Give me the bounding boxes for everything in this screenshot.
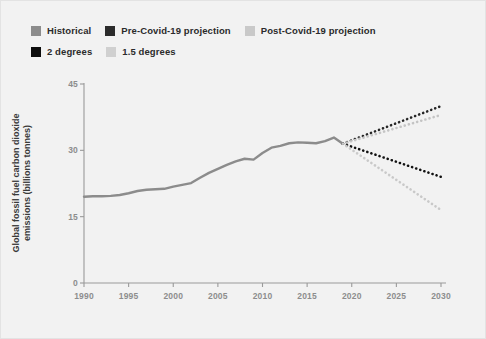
x-axis-tick-label: 2030 — [427, 291, 455, 301]
series-post-covid-19-projection — [343, 115, 441, 144]
x-axis-tick-label: 2020 — [338, 291, 366, 301]
chart-figure: Historical Pre-Covid-19 projection Post-… — [0, 0, 486, 339]
series-1-5-degrees — [343, 144, 441, 210]
y-axis-tick-label: 0 — [50, 278, 78, 288]
series-pre-covid-19-projection — [343, 106, 441, 144]
x-axis-tick-label: 1995 — [115, 291, 143, 301]
x-axis-tick-label: 2005 — [204, 291, 232, 301]
x-axis-tick-label: 1990 — [70, 291, 98, 301]
y-axis-tick-label: 30 — [50, 145, 78, 155]
series-historical — [84, 138, 343, 197]
x-axis-tick-label: 2000 — [159, 291, 187, 301]
x-axis-tick-label: 2015 — [293, 291, 321, 301]
y-axis-tick-label: 15 — [50, 212, 78, 222]
x-axis-tick-label: 2010 — [249, 291, 277, 301]
chart-plot-area — [1, 1, 486, 339]
series-2-degrees — [343, 144, 441, 177]
y-axis-title: Global fossil fuel carbon dioxide emissi… — [11, 93, 33, 273]
x-axis-tick-label: 2025 — [382, 291, 410, 301]
y-axis-tick-label: 45 — [50, 79, 78, 89]
